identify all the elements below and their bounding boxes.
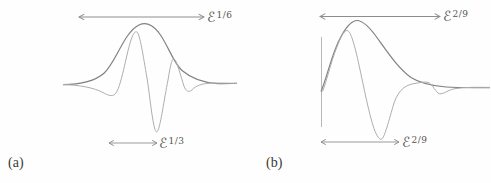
panel-a-bottom-width-label: ℰ1/3 xyxy=(159,134,184,150)
panel-a-caption: (a) xyxy=(8,155,24,171)
energy-symbol: ℰ xyxy=(402,134,410,150)
exponent: 2/9 xyxy=(411,135,427,145)
exponent: 2/9 xyxy=(452,9,468,19)
exponent: 1/6 xyxy=(216,10,232,20)
panel-a-pulse-curve xyxy=(63,32,237,132)
panel-b-top-width-label: ℰ2/9 xyxy=(443,7,468,23)
panel-b-envelope-curve xyxy=(321,21,490,92)
panel-b-caption: (b) xyxy=(266,155,282,171)
two-panel-wave-packet-figure: ℰ1/6 ℰ1/3 ℰ2/9 ℰ2/9 (a) (b) xyxy=(0,0,491,183)
panel-b-bottom-width-label: ℰ2/9 xyxy=(402,133,427,149)
panel-b-pulse-curve xyxy=(323,31,491,140)
curves-canvas xyxy=(0,0,491,183)
panel-a-top-width-label: ℰ1/6 xyxy=(207,8,232,24)
panel-a-envelope-curve xyxy=(63,24,237,85)
energy-symbol: ℰ xyxy=(207,9,215,25)
energy-symbol: ℰ xyxy=(159,135,167,151)
energy-symbol: ℰ xyxy=(443,8,451,24)
exponent: 1/3 xyxy=(168,136,184,146)
